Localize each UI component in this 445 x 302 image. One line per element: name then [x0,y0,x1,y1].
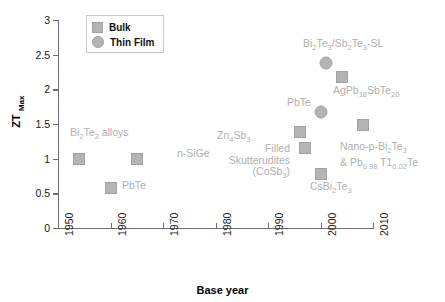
data-point-label: Nano-p-Bi2Te3& Pb0.98 T10.02Te [340,141,418,172]
y-axis-tick-label: 1 [22,153,50,165]
x-axis-tick-label: 1980 [221,213,233,236]
data-point-label: CsBi2Te3 [310,181,352,197]
data-point-label: PbTe [122,180,146,192]
x-axis-tick [321,223,322,228]
x-axis-title: Base year [0,284,445,296]
legend-label-bulk: Bulk [109,22,131,33]
data-point-marker [314,105,327,118]
x-axis-tick-label: 1960 [116,213,128,236]
y-axis-tick-label: 0 [22,222,50,234]
data-point-marker [294,126,306,138]
y-axis-tick [53,55,58,56]
data-point-marker [73,153,85,165]
y-axis-line [58,20,59,229]
x-axis-tick [268,223,269,228]
data-point-marker [105,182,117,194]
y-axis-tick [53,124,58,125]
data-point-marker [319,56,332,69]
legend-item-thin-film: Thin Film [92,35,158,49]
y-axis-tick [53,193,58,194]
x-axis-tick-label: 1950 [63,213,75,236]
data-point-marker [336,71,348,83]
data-point-label: AgPb18SbTe20 [333,85,399,101]
y-tick-label-group: 00.511.522.53 [18,0,50,302]
x-axis-tick [111,223,112,228]
y-axis-tick [53,228,58,229]
x-axis-tick-label: 1990 [273,213,285,236]
data-point-label: PbTe [287,97,311,109]
y-axis-title: ZT Max [10,96,25,128]
data-point-label: Bi2Te3/Sb2Te3-SL [303,38,383,54]
y-axis-tick [53,159,58,160]
data-point-label: FilledSkutterudites(CoSb3) [195,143,290,182]
data-point-marker [357,119,369,131]
data-point-marker [131,153,143,165]
thermoelectric-zt-scatter-chart: 00.511.522.53 19501960197019801990200020… [0,0,445,302]
y-axis-tick [53,20,58,21]
legend-square-marker-icon [92,22,103,33]
legend-label-thin-film: Thin Film [110,37,154,48]
legend-circle-marker-icon [92,36,104,48]
y-axis-tick-label: 1.5 [22,118,50,130]
y-axis-tick-label: 2 [22,83,50,95]
x-axis-tick-label: 1970 [168,213,180,236]
data-point-label: Bi2Te3 alloys [70,127,129,143]
y-axis-tick-label: 3 [22,14,50,26]
legend-item-bulk: Bulk [92,21,158,35]
x-axis-tick [373,223,374,228]
x-axis-tick [58,223,59,228]
data-point-marker [299,142,311,154]
y-axis-tick-label: 2.5 [22,49,50,61]
x-axis-tick [163,223,164,228]
x-axis-tick-label: 2000 [326,213,338,236]
chart-legend: Bulk Thin Film [86,15,164,53]
x-axis-tick [216,223,217,228]
data-point-marker [315,168,327,180]
y-axis-tick-label: 0.5 [22,187,50,199]
x-axis-tick-label: 2010 [378,213,390,236]
y-axis-tick [53,89,58,90]
